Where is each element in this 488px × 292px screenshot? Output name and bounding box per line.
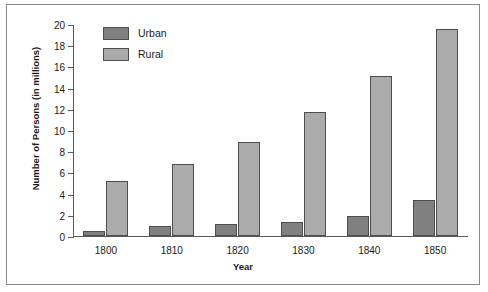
legend-swatch-rural <box>103 48 129 61</box>
y-axis-tick-label: 10 <box>54 126 65 137</box>
y-axis-tick-label: 6 <box>59 168 65 179</box>
x-axis-tick-label: 1800 <box>95 245 117 256</box>
y-axis-tick-label: 14 <box>54 83 65 94</box>
y-axis-tick <box>68 89 74 90</box>
legend-label-rural: Rural <box>138 48 163 60</box>
y-axis-tick <box>68 152 74 153</box>
y-axis-tick-label: 20 <box>54 20 65 31</box>
y-axis-tick-label: 12 <box>54 104 65 115</box>
x-axis-tick-label: 1810 <box>161 245 183 256</box>
y-axis-tick <box>68 46 74 47</box>
bar-urban-1800 <box>83 231 105 236</box>
y-axis-tick <box>68 237 74 238</box>
x-axis-tick-label: 1850 <box>424 245 446 256</box>
y-axis-tick-label: 0 <box>59 232 65 243</box>
x-axis-tick-label: 1830 <box>292 245 314 256</box>
x-axis-title: Year <box>7 261 479 272</box>
bar-group: 1850 <box>413 25 458 236</box>
y-axis-tick <box>68 216 74 217</box>
legend-label-urban: Urban <box>138 27 167 39</box>
y-axis-tick <box>68 195 74 196</box>
chart-frame: Number of Persons (in millions) 02468101… <box>6 4 480 285</box>
y-axis-tick-label: 8 <box>59 147 65 158</box>
bar-rural-1850 <box>436 29 458 236</box>
y-axis-tick <box>68 67 74 68</box>
x-axis-tick-label: 1820 <box>226 245 248 256</box>
chart-legend: Urban Rural <box>103 26 167 68</box>
legend-item-urban: Urban <box>103 26 167 40</box>
y-axis-tick <box>68 110 74 111</box>
bar-rural-1800 <box>106 181 128 236</box>
y-axis-title: Number of Persons (in millions) <box>30 29 41 209</box>
y-axis-tick <box>68 25 74 26</box>
bar-rural-1810 <box>172 164 194 236</box>
bar-group: 1830 <box>281 25 326 236</box>
bar-group: 1840 <box>347 25 392 236</box>
bar-rural-1830 <box>304 112 326 236</box>
bar-urban-1820 <box>215 224 237 236</box>
bar-group: 1820 <box>215 25 260 236</box>
y-axis-tick-label: 18 <box>54 41 65 52</box>
y-axis-tick-label: 2 <box>59 210 65 221</box>
legend-item-rural: Rural <box>103 47 167 61</box>
bar-urban-1840 <box>347 216 369 236</box>
legend-swatch-urban <box>103 27 129 40</box>
x-axis-tick-label: 1840 <box>358 245 380 256</box>
bar-urban-1850 <box>413 200 435 236</box>
bar-urban-1830 <box>281 222 303 236</box>
bar-rural-1840 <box>370 76 392 236</box>
y-axis-tick-label: 16 <box>54 62 65 73</box>
x-axis-line <box>73 236 468 237</box>
bar-rural-1820 <box>238 142 260 236</box>
y-axis-tick <box>68 131 74 132</box>
y-axis-tick-label: 4 <box>59 189 65 200</box>
y-axis-tick <box>68 173 74 174</box>
bar-urban-1810 <box>149 226 171 236</box>
